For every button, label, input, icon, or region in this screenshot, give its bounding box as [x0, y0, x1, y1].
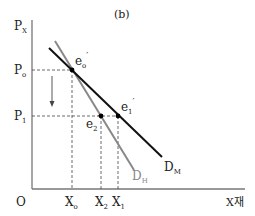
demand-diagram: (b) PX Po P1 eo′ e2′ e1′ DM DH O Xo X2 X…: [0, 0, 255, 216]
quantity-label-x2: X2: [95, 195, 108, 211]
quantity-label-x0: Xo: [65, 195, 78, 211]
arrow-head-icon: [50, 101, 55, 107]
point-label-e0: eo′: [75, 51, 88, 70]
y-axis-label: PX: [14, 19, 27, 35]
point-label-e2: e2′: [86, 114, 100, 133]
quantity-label-x1: X1: [112, 195, 125, 211]
curve-dm: [49, 48, 162, 157]
diagram-title: (b): [114, 8, 130, 21]
origin-label: O: [16, 195, 26, 209]
point-e0: [70, 68, 75, 73]
guide-lines: [32, 70, 118, 189]
price-label-p0: Po: [14, 63, 26, 79]
price-label-p1: P1: [14, 109, 27, 125]
x-axis-label: X재: [226, 196, 244, 209]
curve-label-dm: DM: [164, 160, 181, 176]
point-e1: [116, 114, 121, 119]
curve-label-dh: DH: [132, 169, 148, 185]
point-label-e1: e1′: [121, 97, 135, 116]
